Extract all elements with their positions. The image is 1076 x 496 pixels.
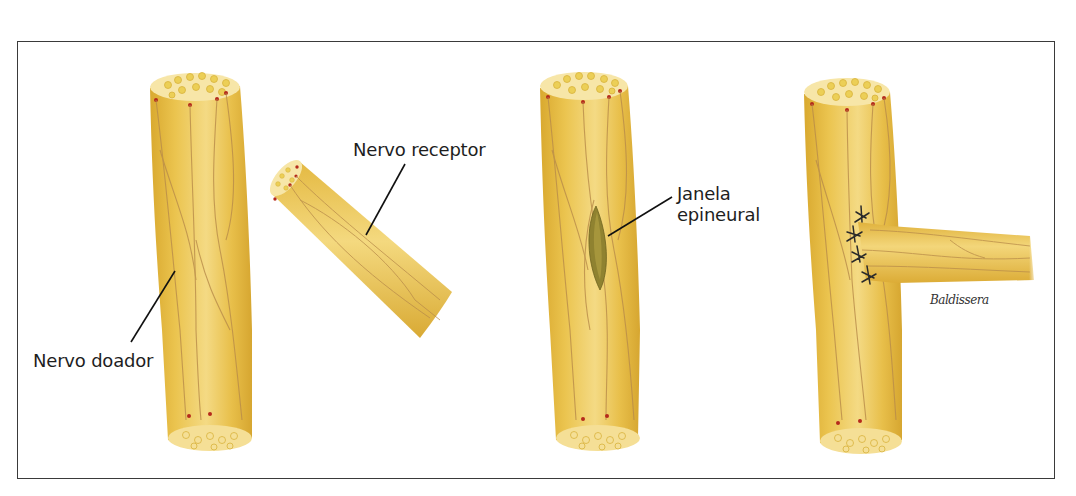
recipient-nerve-3 bbox=[858, 222, 1036, 286]
label-donor-nerve: Nervo doador bbox=[33, 350, 153, 371]
donor-nerve-2 bbox=[540, 72, 640, 451]
label-recipient-nerve: Nervo receptor bbox=[353, 139, 485, 160]
nerve-illustration bbox=[0, 0, 1076, 496]
artist-signature: Baldissera bbox=[930, 293, 989, 307]
leader-line-recipient bbox=[366, 164, 405, 235]
label-window-line1: Janela bbox=[677, 183, 731, 204]
donor-nerve-1 bbox=[150, 73, 252, 452]
label-window-line2: epineural bbox=[677, 204, 760, 225]
